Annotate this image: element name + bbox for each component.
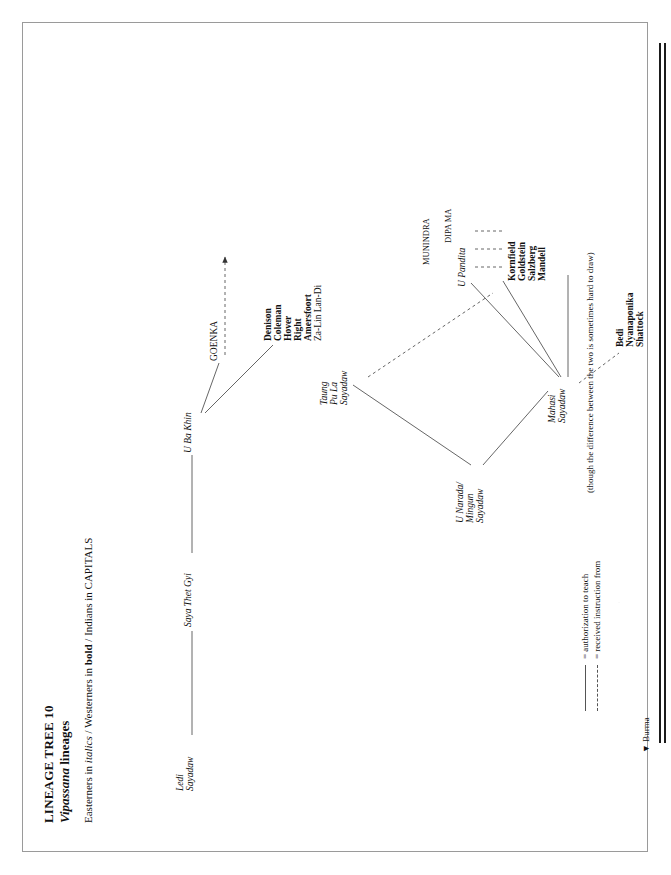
node-line: MUNINDRA	[421, 195, 431, 265]
node-line: Saya Thet Gyi	[183, 547, 193, 627]
divider-rule	[659, 43, 661, 743]
node-line: Right	[293, 231, 303, 341]
node-line: Salzberg	[527, 191, 537, 281]
wire-mahasi-to-upandita	[471, 283, 559, 377]
node-kornfield-group: Kornfield Goldstein Salzberg Mandell	[507, 191, 547, 281]
node-line: Sayadaw	[475, 453, 485, 523]
node-u-ba-khin-western-students: Denison Coleman Hover Right Amersfoort Z…	[263, 231, 323, 341]
connector-layer	[23, 23, 649, 853]
node-saya-thet-gyi: Saya Thet Gyi	[183, 547, 193, 627]
node-bedi-group: Bedi Nyanaponika Shattock	[615, 247, 645, 347]
node-line: Mahasi	[547, 353, 557, 423]
node-line: Ledi	[175, 731, 185, 791]
rotated-chart-wrapper: LINEAGE TREE 10 Vipassana lineages Easte…	[23, 23, 649, 853]
lineage-chart: LINEAGE TREE 10 Vipassana lineages Easte…	[23, 23, 649, 853]
wire-unarada-to-mahasi	[483, 391, 548, 465]
legend-dashed-row: = received instruction from	[591, 561, 603, 711]
node-line: Coleman	[273, 231, 283, 341]
burma-label-group: ▼ Burma	[641, 717, 651, 753]
node-munindra: MUNINDRA	[421, 195, 431, 265]
node-line: Nyanaponika	[625, 247, 635, 347]
wire-taungpula-to-kornfield	[368, 293, 493, 377]
page-frame: LINEAGE TREE 10 Vipassana lineages Easte…	[22, 22, 648, 852]
node-taung-pu-la-sayadaw: Taung Pu La Sayadaw	[319, 335, 349, 405]
node-line: Mingun	[465, 453, 475, 523]
node-goenka: GOENKA	[209, 291, 219, 361]
node-line: Hover	[283, 231, 293, 341]
node-line: Denison	[263, 231, 273, 341]
node-line: Shattock	[635, 247, 645, 347]
node-line: U Pandita	[457, 217, 467, 287]
node-line: Sayadaw	[339, 335, 349, 405]
node-mahasi-sayadaw: Mahasi Sayadaw	[547, 353, 567, 423]
node-dipa-ma: DIPA MA	[443, 173, 453, 243]
legend: = authorization to teach = received inst…	[579, 561, 603, 711]
node-line: Za-Lin Lan-Di	[313, 231, 323, 341]
node-u-narada-mingun-sayadaw: U Narada/ Mingun Sayadaw	[455, 453, 485, 523]
divider-rule-2	[664, 43, 666, 743]
node-line: Bedi	[615, 247, 625, 347]
legend-solid-label: = authorization to teach	[580, 574, 590, 659]
dashed-line-swatch	[597, 665, 598, 711]
legend-note: (though the difference between the two i…	[585, 252, 595, 493]
wire-unarada-to-taungpula	[353, 385, 471, 465]
burma-arrow-icon: ▼	[641, 744, 651, 753]
node-u-ba-khin: U Ba Khin	[183, 383, 193, 453]
node-line: Amersfoort	[303, 231, 313, 341]
burma-label: Burma	[641, 717, 651, 742]
node-line: U Ba Khin	[183, 383, 193, 453]
node-line: Sayadaw	[185, 731, 195, 791]
node-line: Goldstein	[517, 191, 527, 281]
node-line: DIPA MA	[443, 173, 453, 243]
solid-line-swatch	[585, 665, 586, 711]
node-line: Taung	[319, 335, 329, 405]
legend-dashed-label: = received instruction from	[592, 561, 602, 659]
node-line: GOENKA	[209, 291, 219, 361]
legend-solid-row: = authorization to teach	[579, 561, 591, 711]
node-line: Mandell	[537, 191, 547, 281]
node-line: U Narada/	[455, 453, 465, 523]
wire-ubakhin-to-goenka	[201, 363, 219, 413]
node-line: Kornfield	[507, 191, 517, 281]
node-ledi-sayadaw: Ledi Sayadaw	[175, 731, 195, 791]
node-line: Sayadaw	[557, 353, 567, 423]
node-line: Pu La	[329, 335, 339, 405]
node-u-pandita: U Pandita	[457, 217, 467, 287]
